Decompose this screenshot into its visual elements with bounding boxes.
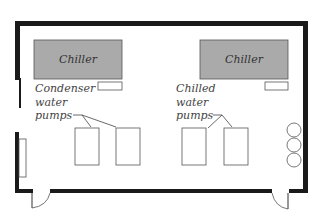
pumps — [75, 128, 248, 165]
chilled-label-line2: water — [176, 96, 209, 109]
right-wall — [303, 21, 308, 193]
tank-1 — [287, 123, 301, 137]
chilled-pumps-label: Chilled water pumps — [176, 82, 216, 122]
left-wall-thin — [19, 78, 21, 108]
condenser-label-line3: pumps — [35, 109, 73, 122]
condenser-label-line1: Condenser — [35, 82, 96, 95]
tanks — [287, 123, 301, 167]
chiller-right-control-panel — [265, 82, 288, 90]
chiller-left: Chiller — [34, 40, 122, 79]
left-wall-lower — [15, 132, 19, 193]
chiller-right: Chiller — [200, 40, 288, 79]
left-wall-upper — [15, 21, 20, 80]
condenser-leader-2 — [82, 115, 116, 127]
bottom-wall-left-segment — [15, 189, 33, 193]
top-wall — [15, 21, 308, 26]
chilled-pump-1 — [182, 128, 206, 165]
chiller-left-label: Chiller — [59, 53, 98, 66]
bottom-wall-middle-segment — [50, 189, 272, 193]
left-door-swing — [32, 193, 50, 208]
chilled-label-line3: pumps — [176, 109, 214, 122]
chiller-right-label: Chiller — [225, 53, 264, 66]
chilled-leader-2 — [222, 115, 232, 127]
right-door-swing — [272, 193, 288, 209]
chilled-label-line1: Chilled — [176, 82, 216, 95]
right-door[interactable] — [272, 193, 288, 209]
condenser-pumps-label: Condenser water pumps — [35, 82, 96, 122]
condenser-pump-2 — [116, 128, 140, 165]
bottom-wall-right-segment — [289, 189, 308, 193]
chiller-left-control-panel — [98, 82, 122, 90]
left-door[interactable] — [32, 193, 50, 208]
wall-panel — [19, 139, 26, 177]
tank-3 — [287, 153, 301, 167]
condenser-pump-1 — [75, 128, 99, 165]
mechanical-room-floor-plan: Chiller Chiller Condenser water pumps Ch… — [0, 0, 319, 224]
condenser-label-line2: water — [35, 96, 68, 109]
tank-2 — [287, 138, 301, 152]
chilled-pump-2 — [224, 128, 248, 165]
